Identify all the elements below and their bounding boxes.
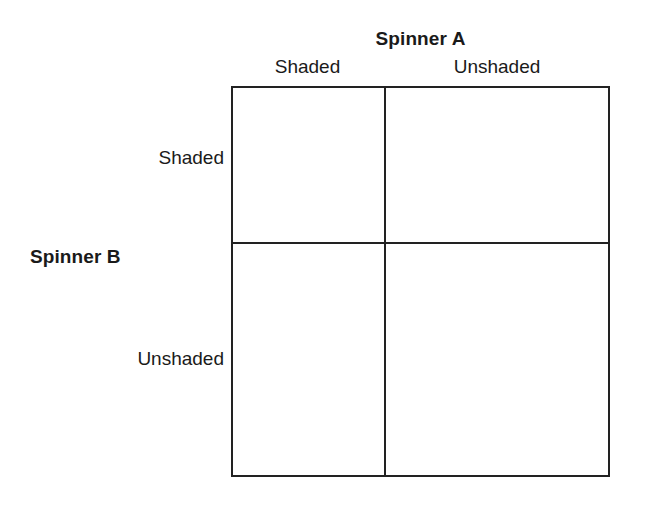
column-group-label: Spinner A	[231, 28, 610, 50]
column-header-unshaded: Unshaded	[384, 56, 610, 78]
table-cell[interactable]	[233, 88, 384, 242]
table-cell[interactable]	[386, 88, 608, 242]
table-cell[interactable]	[386, 244, 608, 475]
row-header-shaded: Shaded	[158, 147, 224, 169]
table-cell[interactable]	[233, 244, 384, 475]
outcome-grid	[231, 86, 610, 477]
row-group-label: Spinner B	[30, 246, 121, 268]
figure-canvas: Spinner A Shaded Unshaded Spinner B Shad…	[0, 0, 646, 506]
column-header-shaded: Shaded	[231, 56, 384, 78]
row-header-unshaded: Unshaded	[137, 348, 224, 370]
